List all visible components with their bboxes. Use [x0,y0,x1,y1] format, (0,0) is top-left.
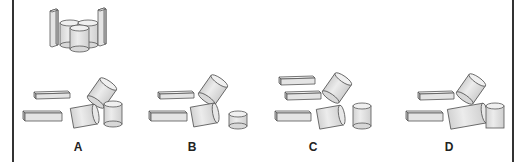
tilted-cylinder [321,71,353,105]
flat-prism [406,111,443,121]
tall-prism-left [50,9,58,47]
flat-prism [418,91,454,100]
option-b-pieces[interactable] [149,73,247,129]
long-tilted-cylinder [447,103,489,129]
flat-prism [285,91,321,100]
tilted-cylinder [197,73,229,107]
tilted-cylinder [190,103,220,127]
option-d-label[interactable]: D [439,140,459,154]
upright-cylinder [353,103,371,129]
flat-prism [149,111,187,121]
flat-prism [275,111,311,121]
flat-prism [23,111,62,121]
short-cylinder [229,111,247,129]
flat-prism [34,91,70,99]
option-c-pieces[interactable] [275,71,371,129]
option-a-pieces[interactable] [23,76,122,128]
tilted-cylinder [70,104,100,128]
option-a-label[interactable]: A [68,140,88,154]
option-c-label[interactable]: C [303,140,323,154]
reference-figure [50,8,106,52]
option-b-label[interactable]: B [182,140,202,154]
tall-prism-right [98,8,106,46]
upright-cylinder [104,101,122,127]
flat-prism [158,91,194,99]
flat-prism [279,76,315,85]
cylinder-front [70,25,89,52]
upright-cylinder [486,103,504,128]
tilted-cylinder [316,105,346,129]
option-d-pieces[interactable] [406,72,504,129]
puzzle-figure [0,0,530,162]
tilted-cylinder [455,72,487,106]
